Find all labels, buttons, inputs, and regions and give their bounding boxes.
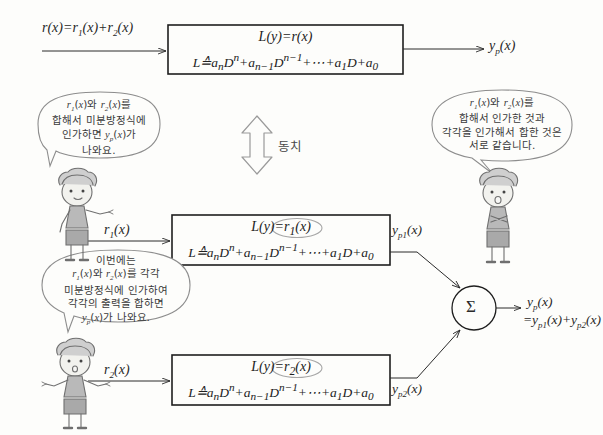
block-bottom-equation-line1: L(y)=r2(x) (172, 359, 390, 378)
equivalence-label: 동치 (278, 136, 302, 155)
bubble-top-right-line-1: r1(x)와 r2(x)를 (432, 96, 572, 112)
bubble-top-right-text: r1(x)와 r2(x)를 합해서 인가한 것과 각각을 인가해서 합한 것은 … (432, 96, 572, 153)
bubble-top-right-line-3: 각각을 인가해서 합한 것은 (432, 126, 572, 139)
bubble-top-left-line-4: 나와요. (38, 144, 160, 157)
bubble-bottom-left-line-3: 미분방정식에 인가하여 (42, 284, 190, 297)
block-bottom-output-label: yp2(x) (392, 381, 422, 399)
arrow-bottom-to-summer (390, 330, 460, 378)
bubble-bottom-left-line-5: yp(x)가 나와요. (42, 311, 190, 327)
summer-output-line1: yp(x) (527, 294, 552, 312)
bubble-top-left-line-3: 인가하면 yp(x)가 (38, 128, 160, 144)
character-lower-left (42, 338, 110, 428)
bubble-top-left-line-1: r1(x)와 r2(x)를 (38, 98, 160, 114)
block-middle-output-label: yp1(x) (392, 222, 422, 240)
figure-canvas: r(x)=r1(x)+r2(x) L(y)=r(x) L≙anDn+an−1Dn… (0, 0, 603, 435)
block-top-equation-line1: L(y)=r(x) (168, 29, 403, 45)
block-top-output-label: yp(x) (489, 38, 515, 56)
bubble-top-right-line-2: 합해서 인가한 것과 (432, 112, 572, 125)
arrow-middle-to-summer (390, 252, 460, 288)
bubble-bottom-left-line-2: r1(x)와 r2(x)를 각각 (42, 267, 190, 283)
block-bottom-equation-line2: L≙anDn+an−1Dn−1+⋯+a1D+a0 (172, 381, 390, 402)
bubble-top-left-text: r1(x)와 r2(x)를 합해서 미분방정식에 인가하면 yp(x)가 나와요… (38, 98, 160, 157)
bubble-top-left-line-2: 합해서 미분방정식에 (38, 114, 160, 127)
bubble-top-right-line-4: 서로 같습니다. (432, 139, 572, 152)
equivalence-double-arrow (242, 116, 272, 174)
character-right (480, 168, 518, 262)
block-middle-equation-line2: L≙anDn+an−1Dn−1+⋯+a1D+a0 (172, 241, 390, 262)
block-middle-input-label: r1(x) (104, 222, 130, 240)
bubble-bottom-left-line-4: 각각의 출력을 합하면 (42, 297, 190, 310)
block-top-input-label: r(x)=r1(x)+r2(x) (42, 20, 133, 38)
bubble-bottom-left-text: 이번에는 r1(x)와 r2(x)를 각각 미분방정식에 인가하여 각각의 출력… (42, 254, 190, 327)
block-top-equation-line2: L≙anDn+an−1Dn−1+⋯+a1D+a0 (168, 51, 403, 72)
bubble-bottom-left-line-1: 이번에는 (42, 254, 190, 267)
summer-symbol: Σ (466, 297, 476, 317)
block-middle-equation-line1: L(y)=r1(x) (172, 219, 390, 238)
summer-output-line2: =yp1(x)+yp2(x) (523, 312, 601, 330)
block-bottom-input-label: r2(x) (104, 362, 130, 380)
character-upper-left (59, 168, 113, 260)
